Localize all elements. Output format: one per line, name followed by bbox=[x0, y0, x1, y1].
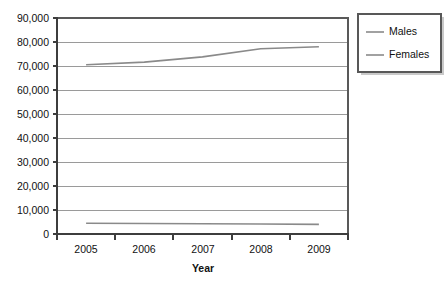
x-tick-label: 2005 bbox=[74, 243, 98, 255]
legend-box bbox=[358, 14, 441, 72]
x-tick-label: 2009 bbox=[307, 243, 331, 255]
gridlines bbox=[57, 42, 348, 210]
y-tick-label: 40,000 bbox=[17, 132, 49, 144]
x-tick-label: 2007 bbox=[191, 243, 215, 255]
series-line-males bbox=[86, 47, 319, 65]
y-tick-label: 0 bbox=[43, 228, 49, 240]
series-line-females bbox=[86, 223, 319, 224]
x-tick-label: 2008 bbox=[249, 243, 273, 255]
legend[interactable]: Males Females bbox=[358, 14, 444, 75]
line-chart: 90,000 80,000 70,000 60,000 50,000 40,00… bbox=[0, 0, 448, 282]
y-tick-label: 80,000 bbox=[17, 36, 49, 48]
y-tick-label: 60,000 bbox=[17, 84, 49, 96]
y-tick-label: 10,000 bbox=[17, 204, 49, 216]
y-tick-label: 90,000 bbox=[17, 12, 49, 24]
y-tick-label: 30,000 bbox=[17, 156, 49, 168]
x-tick-label: 2006 bbox=[132, 243, 156, 255]
x-tick-marks bbox=[57, 234, 348, 240]
chart-canvas: 90,000 80,000 70,000 60,000 50,000 40,00… bbox=[0, 0, 448, 282]
y-tick-label: 70,000 bbox=[17, 60, 49, 72]
x-axis-title: Year bbox=[192, 262, 214, 274]
x-axis-tick-labels: 2005 2006 2007 2008 2009 bbox=[74, 243, 331, 255]
legend-label-females: Females bbox=[389, 48, 429, 60]
y-axis-tick-labels: 90,000 80,000 70,000 60,000 50,000 40,00… bbox=[17, 12, 49, 240]
y-tick-label: 50,000 bbox=[17, 108, 49, 120]
series-lines bbox=[86, 47, 319, 225]
plot-frame bbox=[57, 18, 348, 234]
legend-label-males: Males bbox=[389, 25, 417, 37]
y-tick-label: 20,000 bbox=[17, 180, 49, 192]
